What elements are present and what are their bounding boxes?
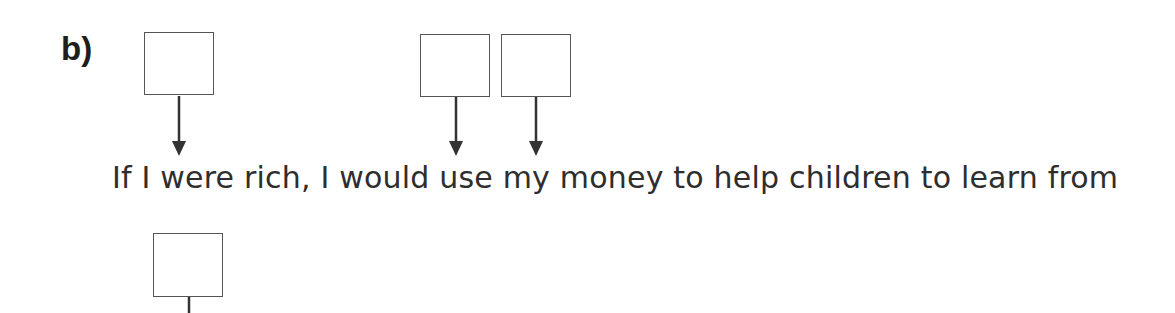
answer-box-1[interactable] [144, 32, 214, 95]
answer-box-2[interactable] [420, 34, 490, 97]
answer-box-3[interactable] [501, 34, 571, 97]
arrow-down-icon [529, 97, 543, 156]
answer-box-4[interactable] [153, 233, 223, 297]
arrow-down-icon [449, 97, 463, 156]
arrow-down-icon [172, 96, 186, 156]
question-sentence: If I were rich, I would use my money to … [112, 156, 1118, 200]
question-label: b) [61, 29, 92, 69]
